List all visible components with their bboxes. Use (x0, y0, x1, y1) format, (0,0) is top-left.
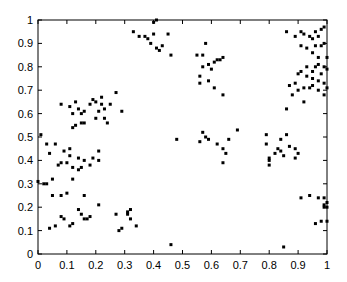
y-tick-label: 0 (27, 248, 33, 260)
data-point (80, 112, 83, 115)
data-point (317, 35, 320, 38)
data-point (83, 194, 86, 197)
data-point (143, 35, 146, 38)
data-point (106, 121, 109, 124)
x-tick-label: 0.3 (117, 259, 132, 271)
data-point (308, 35, 311, 38)
data-point (305, 75, 308, 78)
data-point (299, 44, 302, 47)
data-point (89, 164, 92, 167)
data-point (308, 86, 311, 89)
data-point (236, 128, 239, 131)
data-point (83, 159, 86, 162)
data-point (323, 206, 326, 209)
data-point (94, 100, 97, 103)
data-point (63, 217, 66, 220)
data-point (169, 243, 172, 246)
data-point (207, 138, 210, 141)
data-point (294, 157, 297, 160)
y-tick-label: 0.4 (18, 154, 33, 166)
data-point (297, 89, 300, 92)
data-point (138, 35, 141, 38)
data-point (120, 110, 123, 113)
data-point (311, 77, 314, 80)
data-point (299, 196, 302, 199)
data-point (311, 37, 314, 40)
data-point (161, 44, 164, 47)
y-tick-label: 0.5 (18, 131, 33, 143)
data-point (117, 229, 120, 232)
data-point (320, 28, 323, 31)
data-point (71, 166, 74, 169)
data-point (268, 159, 271, 162)
data-point (285, 30, 288, 33)
data-point (201, 131, 204, 134)
data-point (97, 159, 100, 162)
data-point (65, 161, 68, 164)
data-point (326, 86, 329, 89)
x-tick-label: 0.5 (175, 259, 190, 271)
data-point (45, 143, 48, 146)
data-point (299, 30, 302, 33)
data-point (314, 44, 317, 47)
data-point (326, 201, 329, 204)
data-point (299, 70, 302, 73)
data-point (80, 121, 83, 124)
data-point (37, 180, 40, 183)
data-point (89, 103, 92, 106)
data-point (80, 213, 83, 216)
data-point (132, 30, 135, 33)
data-point (149, 42, 152, 45)
data-point (297, 152, 300, 155)
data-point (311, 84, 314, 87)
data-point (317, 89, 320, 92)
x-tick-label: 0.9 (290, 259, 305, 271)
data-point (71, 222, 74, 225)
data-point (83, 110, 86, 113)
data-point (276, 147, 279, 150)
data-point (175, 138, 178, 141)
data-point (221, 56, 224, 59)
data-point (71, 112, 74, 115)
x-tick-label: 0 (35, 259, 41, 271)
data-point (305, 65, 308, 68)
data-point (308, 194, 311, 197)
data-point (288, 145, 291, 148)
data-point (135, 224, 138, 227)
data-point (60, 194, 63, 197)
data-point (94, 117, 97, 120)
x-tick-label: 0.7 (233, 259, 248, 271)
data-point (323, 26, 326, 29)
x-tick-label: 0.2 (88, 259, 103, 271)
x-tick-label: 0.6 (204, 259, 219, 271)
data-point (291, 93, 294, 96)
data-point (103, 117, 106, 120)
data-point (302, 33, 305, 36)
data-point (65, 192, 68, 195)
data-point (158, 49, 161, 52)
data-point (77, 157, 80, 160)
x-tick-label: 0.8 (262, 259, 277, 271)
data-point (60, 103, 63, 106)
data-point (323, 196, 326, 199)
data-point (80, 166, 83, 169)
data-point (60, 161, 63, 164)
data-point (51, 194, 54, 197)
data-point (39, 133, 42, 136)
data-point (146, 37, 149, 40)
data-point (285, 133, 288, 136)
y-tick-label: 0.2 (18, 201, 33, 213)
data-point (100, 96, 103, 99)
data-point (221, 161, 224, 164)
data-point (221, 147, 224, 150)
x-tick-label: 0.4 (146, 259, 161, 271)
data-point (103, 107, 106, 110)
data-point (77, 168, 80, 171)
data-point (294, 82, 297, 85)
data-point (314, 30, 317, 33)
data-point (91, 98, 94, 101)
data-point (48, 152, 51, 155)
data-point (224, 152, 227, 155)
data-point (216, 143, 219, 146)
data-point (320, 44, 323, 47)
